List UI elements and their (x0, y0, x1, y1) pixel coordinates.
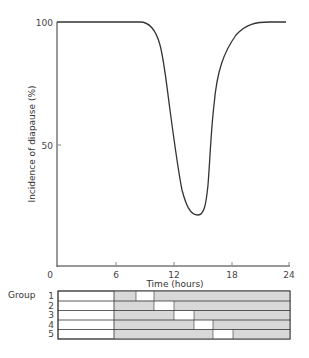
group-label: Group (8, 290, 36, 300)
group-3-label: 3 (48, 310, 54, 320)
group-5-label: 5 (48, 329, 54, 339)
y-tick-label-50: 50 (42, 141, 54, 151)
group-schedule-table (58, 291, 290, 339)
group-1-label: 1 (48, 291, 54, 301)
x-tick-label-0: 0 (47, 270, 53, 280)
x-tick-label-6: 6 (113, 270, 119, 280)
group-3-gap (174, 311, 194, 321)
group-1-gap (136, 292, 154, 301)
diapause-curve (57, 22, 286, 215)
x-axis-title: Time (hours) (145, 279, 203, 289)
x-tick-label-24: 24 (283, 270, 295, 280)
chart-figure: 100 50 0 6 12 18 24 Incidence of diapaus… (0, 0, 309, 358)
y-axis-title: Incidence of diapause (%) (27, 86, 37, 203)
y-tick-label-100: 100 (36, 18, 53, 28)
group-2-label: 2 (48, 301, 54, 311)
group-5-gap (213, 330, 233, 339)
group-4-label: 4 (48, 320, 54, 330)
group-2-gap (154, 301, 174, 311)
group-4-gap (194, 320, 213, 330)
x-tick-label-18: 18 (226, 270, 238, 280)
